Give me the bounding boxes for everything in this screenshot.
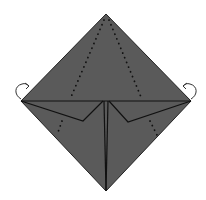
origami-diagram: Diamond-oriented folded paper with two s… (0, 0, 206, 200)
origami-diagram-svg (0, 0, 206, 200)
